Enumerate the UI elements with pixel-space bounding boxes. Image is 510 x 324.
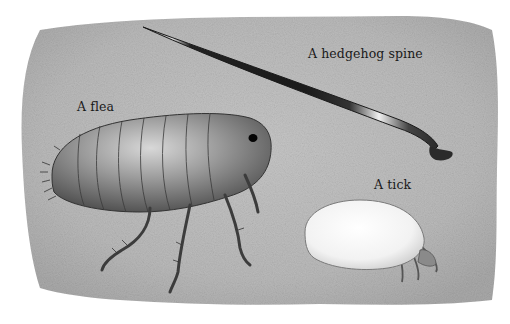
label-hedgehog-spine: A hedgehog spine [308, 46, 423, 61]
label-flea: A flea [77, 99, 114, 114]
label-tick: A tick [374, 177, 411, 192]
illustration-canvas [0, 0, 510, 324]
